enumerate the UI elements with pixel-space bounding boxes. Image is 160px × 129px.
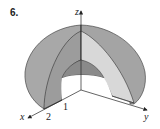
problem-number: 6. — [10, 8, 18, 18]
z-axis-label: z — [75, 7, 79, 17]
y-axis-label: y — [144, 112, 148, 122]
solid-diagram — [0, 0, 160, 129]
hemispherical-shell-figure: 6. z x y 1 2 — [0, 0, 160, 129]
tick-label-2: 2 — [46, 112, 51, 122]
x-axis-label: x — [20, 112, 24, 122]
tick-label-1: 1 — [63, 102, 68, 112]
